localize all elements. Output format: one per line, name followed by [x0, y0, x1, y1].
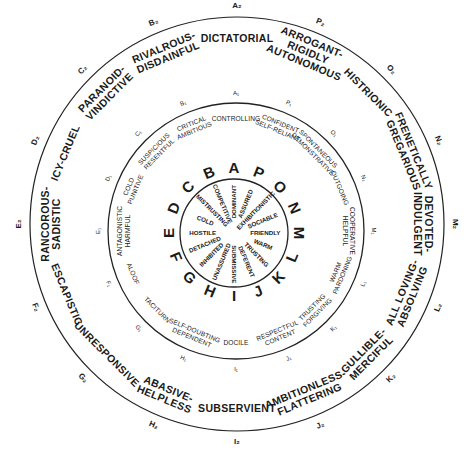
- octant-letter-e: E: [160, 228, 177, 238]
- middle-code-m1: M₁: [371, 227, 377, 234]
- outer-code-a2: A₂: [232, 1, 242, 10]
- middle-code-n1: N₁: [360, 174, 368, 182]
- outer-code-c2: C₂: [76, 63, 89, 76]
- octant-letter-i: I: [232, 287, 236, 304]
- octant-letter-b: B: [201, 162, 218, 182]
- outer-code-b2: B₂: [147, 16, 159, 28]
- octant-letter-k: K: [268, 267, 288, 287]
- outer-code-i2: I₂: [234, 437, 240, 446]
- inner-label-d: COLD: [196, 214, 215, 227]
- middle-label-n: OUTGOING: [330, 170, 351, 207]
- outer-code-l2: L₂: [432, 301, 444, 313]
- middle-code-e1: E₁: [95, 228, 101, 234]
- outer-label-a: DICTATORIAL: [201, 32, 274, 44]
- outer-code-f2: F₂: [30, 302, 42, 314]
- middle-ring: [108, 103, 364, 359]
- interpersonal-circle-diagram: A₂DICTATORIALA₁CONTROLLINGADOMINANTB₂RIV…: [0, 0, 468, 457]
- octant-letter-l: L: [282, 249, 301, 264]
- inner-label-m: FRIENDLY: [250, 229, 281, 236]
- middle-label-e: ANTAGONISTIC: [116, 206, 123, 256]
- middle-label-a: CONTROLLING: [212, 115, 261, 122]
- octant-letter-g: G: [180, 267, 200, 287]
- outer-code-k2: K₂: [384, 371, 397, 384]
- octant-letter-n: N: [285, 200, 305, 217]
- octant-letter-m: M: [291, 227, 308, 240]
- outer-code-j2: J₂: [315, 419, 326, 431]
- outer-code-h2: H₂: [148, 419, 160, 431]
- octant-labels: A₂DICTATORIALA₁CONTROLLINGADOMINANTB₂RIV…: [14, 1, 460, 446]
- outer-label-m: INDULGENT: [412, 192, 424, 256]
- inner-label-e: HOSTILE: [189, 229, 216, 236]
- middle-code-a1: A₁: [233, 90, 239, 96]
- middle-code-d1: D₁: [104, 174, 112, 182]
- octant-letter-f: F: [167, 249, 186, 264]
- inner-label-i: SUBMISSIVE: [231, 245, 238, 283]
- middle-code-g1: G₁: [134, 324, 143, 333]
- octant-letter-j: J: [251, 281, 265, 300]
- octant-letter-c: C: [178, 177, 198, 197]
- outer-code-p2: P₂: [315, 16, 327, 28]
- outer-label-e: SADISTIC: [50, 198, 62, 250]
- octant-letter-h: H: [202, 281, 219, 301]
- middle-label-e: HARMFUL: [124, 214, 131, 247]
- middle-code-i1: I₁: [234, 366, 238, 372]
- octant-letter-d: D: [164, 200, 184, 217]
- outer-code-g2: G₂: [76, 371, 90, 385]
- middle-code-o1: O₁: [329, 129, 338, 138]
- octant-letter-p: P: [251, 163, 267, 183]
- outer-code-m2: M₂: [451, 219, 460, 230]
- octant-letter-a: A: [229, 159, 240, 176]
- outer-code-e2: E₂: [14, 219, 23, 228]
- outer-label-d: ICY-CRUEL: [48, 123, 82, 183]
- middle-code-c1: C₁: [134, 129, 143, 138]
- middle-code-k1: K₁: [329, 324, 338, 333]
- middle-code-p1: P₁: [285, 99, 293, 107]
- outer-label-o: HISTRIONIC: [342, 66, 396, 120]
- outer-code-n2: N₂: [433, 134, 445, 146]
- middle-label-g: TACITURN: [143, 295, 172, 324]
- middle-label-f: ALOOF: [126, 262, 141, 286]
- middle-label-i: DOCILE: [223, 339, 249, 346]
- middle-code-l1: L₁: [359, 280, 367, 287]
- outer-label-f: ESCAPISTIC: [49, 262, 85, 328]
- middle-code-h1: H₁: [179, 354, 187, 362]
- middle-label-m: COOPERATIVE: [349, 207, 356, 256]
- outer-code-o2: O₂: [385, 63, 399, 77]
- middle-code-j1: J₁: [285, 354, 292, 361]
- middle-code-f1: F₁: [105, 280, 113, 288]
- middle-code-b1: B₁: [179, 99, 187, 107]
- outer-code-d2: D₂: [29, 134, 41, 146]
- middle-label-m: HELPFUL: [342, 216, 349, 247]
